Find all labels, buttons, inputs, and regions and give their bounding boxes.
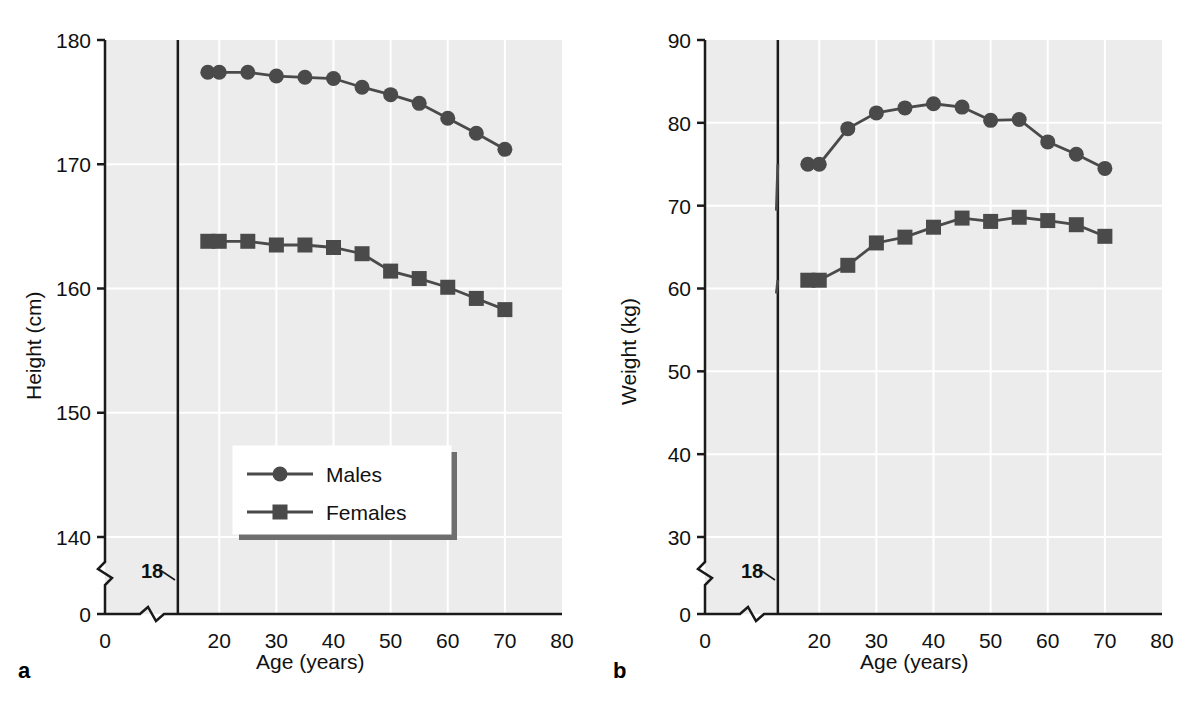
data-point-females <box>1012 210 1027 225</box>
data-point-females <box>840 258 855 273</box>
legend-label-males: Males <box>326 463 382 486</box>
data-point-males <box>326 71 341 86</box>
data-point-females <box>955 211 970 226</box>
x-tick-label-50-b: 50 <box>979 629 1002 652</box>
x-tick-label-70: 70 <box>493 629 516 652</box>
data-point-females <box>440 280 455 295</box>
data-point-females <box>983 214 998 229</box>
chart-svg-a: 180 170 160 150 140 0 0 20 30 40 50 60 7… <box>0 0 596 704</box>
data-point-males <box>412 96 427 111</box>
y-tick-label-90: 90 <box>668 29 691 52</box>
data-point-females <box>812 273 827 288</box>
series-entry-stem <box>776 164 778 210</box>
reference-label-18-b: 18 <box>741 560 763 582</box>
data-point-females <box>1097 229 1112 244</box>
data-point-males <box>240 65 255 80</box>
figure-container: a Height (cm) Age (years) <box>0 0 1191 704</box>
y-tick-label-170: 170 <box>56 153 91 176</box>
data-point-females <box>897 230 912 245</box>
y-tick-label-40: 40 <box>668 443 691 466</box>
data-point-males <box>383 87 398 102</box>
data-point-males <box>926 96 941 111</box>
y-tick-label-50: 50 <box>668 360 691 383</box>
data-point-males <box>1040 134 1055 149</box>
x-tick-label-80: 80 <box>550 629 573 652</box>
data-point-males <box>440 111 455 126</box>
y-tick-label-180: 180 <box>56 29 91 52</box>
x-tick-label-20: 20 <box>208 629 231 652</box>
data-point-females <box>269 238 284 253</box>
data-point-males <box>869 105 884 120</box>
data-point-males <box>1069 147 1084 162</box>
y-tick-label-zero-b: 0 <box>679 603 691 626</box>
panel-b: b Weight (kg) Age (years) <box>595 0 1191 704</box>
x-tick-label-40-b: 40 <box>922 629 945 652</box>
y-tick-label-160: 160 <box>56 277 91 300</box>
data-point-females <box>497 302 512 317</box>
x-tick-label-0-b: 0 <box>699 629 711 652</box>
x-tick-label-70-b: 70 <box>1093 629 1116 652</box>
y-tick-label-60: 60 <box>668 277 691 300</box>
data-point-males <box>212 65 227 80</box>
y-tick-label-80: 80 <box>668 112 691 135</box>
y-tick-label-zero: 0 <box>79 603 91 626</box>
series-entry-stem <box>776 280 778 293</box>
x-tick-label-30-b: 30 <box>865 629 888 652</box>
reference-label-18-a: 18 <box>141 560 163 582</box>
data-point-males <box>840 121 855 136</box>
chart-svg-b: 90 80 70 60 50 40 30 0 0 20 30 40 50 60 … <box>595 0 1191 704</box>
data-point-males <box>812 157 827 172</box>
data-point-females <box>926 220 941 235</box>
x-tick-label-80-b: 80 <box>1150 629 1173 652</box>
data-point-females <box>412 271 427 286</box>
data-point-males <box>355 80 370 95</box>
x-tick-label-50: 50 <box>379 629 402 652</box>
x-tick-label-60: 60 <box>436 629 459 652</box>
data-point-females <box>869 235 884 250</box>
data-point-females <box>383 264 398 279</box>
data-point-males <box>1097 161 1112 176</box>
legend-marker-females-square-icon <box>273 505 288 520</box>
data-point-females <box>240 234 255 249</box>
data-point-females <box>212 234 227 249</box>
y-tick-label-140: 140 <box>56 526 91 549</box>
data-point-females <box>326 240 341 255</box>
data-point-males <box>269 69 284 84</box>
data-point-females <box>355 246 370 261</box>
data-point-males <box>497 142 512 157</box>
data-point-females <box>1069 217 1084 232</box>
y-tick-label-150: 150 <box>56 401 91 424</box>
legend-marker-males-circle-icon <box>273 467 288 482</box>
data-point-males <box>1012 112 1027 127</box>
x-tick-label-20-b: 20 <box>808 629 831 652</box>
data-point-males <box>897 100 912 115</box>
x-tick-label-0: 0 <box>99 629 111 652</box>
y-tick-label-30: 30 <box>668 526 691 549</box>
legend-label-females: Females <box>326 501 407 524</box>
x-tick-label-60-b: 60 <box>1036 629 1059 652</box>
data-point-males <box>297 70 312 85</box>
data-point-females <box>1040 213 1055 228</box>
data-point-females <box>297 238 312 253</box>
panel-a: a Height (cm) Age (years) <box>0 0 596 704</box>
data-point-males <box>983 113 998 128</box>
legend-a: Males Females <box>233 446 457 540</box>
data-point-males <box>469 126 484 141</box>
data-point-males <box>955 100 970 115</box>
data-point-females <box>469 291 484 306</box>
x-tick-label-40: 40 <box>322 629 345 652</box>
x-tick-label-30: 30 <box>265 629 288 652</box>
y-tick-label-70: 70 <box>668 195 691 218</box>
